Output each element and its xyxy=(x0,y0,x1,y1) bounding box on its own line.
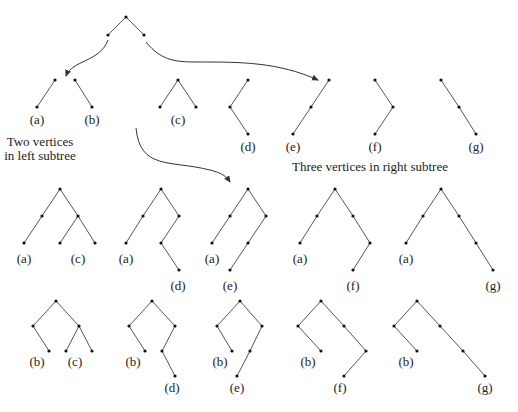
tree-node xyxy=(158,105,161,108)
tree-node xyxy=(90,349,93,352)
tree-node xyxy=(93,241,96,244)
tree-node xyxy=(342,374,345,377)
tree-node xyxy=(176,78,179,81)
tree-node xyxy=(150,299,153,302)
tree-edge xyxy=(298,301,321,326)
tree-node xyxy=(291,132,294,135)
tree-node xyxy=(159,241,162,244)
tree-node xyxy=(58,187,61,190)
tree-edge xyxy=(33,326,49,351)
tree-edge xyxy=(161,216,179,243)
tree-node xyxy=(327,78,330,81)
tree-label: (f) xyxy=(347,278,360,293)
tree-edge xyxy=(230,80,248,107)
root-tree xyxy=(106,15,145,36)
combined-tree-b-1: (b)(d) xyxy=(125,299,179,395)
tree-edge xyxy=(441,189,459,216)
tree-node xyxy=(47,349,50,352)
tree-node xyxy=(364,349,367,352)
tree-node xyxy=(392,324,395,327)
tree-node xyxy=(351,268,354,271)
combined-tree-a-3: (a)(f) xyxy=(293,187,372,293)
tree-edge xyxy=(160,80,178,107)
tree-node xyxy=(461,349,464,352)
tree-edge xyxy=(126,216,143,243)
tree-edge xyxy=(240,301,262,326)
tree-edge xyxy=(441,80,459,107)
tree-node xyxy=(106,33,109,36)
tree-edge xyxy=(417,301,440,326)
tree-node xyxy=(421,214,424,217)
tree-label: (e) xyxy=(223,278,237,293)
tree-edge xyxy=(293,107,311,134)
tree-edge xyxy=(212,216,230,243)
tree-edge xyxy=(353,243,370,270)
tree-node xyxy=(40,214,43,217)
tree-edge xyxy=(250,326,262,351)
tree-edge xyxy=(230,189,248,216)
tree-label: (b) xyxy=(300,354,315,369)
binary-tree-diagram: (a)(b) (c)(d)(e)(f)(g) (a)(c)(a)(d)(a)(e… xyxy=(0,0,518,412)
right-subtree-1: (d) xyxy=(228,78,255,154)
caption-right: Three vertices in right subtree xyxy=(292,159,448,174)
tree-node xyxy=(90,105,93,108)
tree-node xyxy=(64,349,67,352)
tree-edge xyxy=(335,189,353,216)
tree-node xyxy=(53,78,56,81)
tree-edge xyxy=(353,216,370,243)
tree-edge xyxy=(375,107,393,134)
tree-edge xyxy=(423,189,441,216)
tree-node xyxy=(319,349,322,352)
tree-label: (d) xyxy=(240,139,255,154)
tree-node xyxy=(73,78,76,81)
arrow-to-left-subtrees xyxy=(66,40,108,76)
tree-node xyxy=(127,324,130,327)
tree-label: (g) xyxy=(477,380,492,395)
arrow-to-combined-row xyxy=(136,128,230,182)
tree-edge xyxy=(56,301,79,326)
tree-node xyxy=(491,268,494,271)
tree-edge xyxy=(344,351,366,376)
tree-edge xyxy=(37,80,55,107)
combined-tree-a-4: (a)(g) xyxy=(399,187,501,293)
combined-tree-a-0: (a)(c) xyxy=(17,187,97,266)
tree-edge xyxy=(394,301,417,326)
tree-edge xyxy=(230,107,248,134)
tree-node xyxy=(31,324,34,327)
arrows xyxy=(66,40,318,182)
tree-edge xyxy=(78,216,95,243)
tree-label: (e) xyxy=(286,139,300,154)
tree-edge xyxy=(317,189,335,216)
tree-node xyxy=(391,105,394,108)
tree-edge xyxy=(161,243,179,270)
tree-edge xyxy=(300,216,317,243)
tree-node xyxy=(474,241,477,244)
tree-node xyxy=(124,15,127,18)
tree-edge xyxy=(126,17,144,35)
tree-node xyxy=(415,349,418,352)
tree-node xyxy=(194,105,197,108)
tree-label: (a) xyxy=(119,251,133,266)
tree-node xyxy=(210,241,213,244)
tree-node xyxy=(368,241,371,244)
combined-tree-b-4: (b)(g) xyxy=(392,299,492,395)
tree-node xyxy=(238,299,241,302)
tree-node xyxy=(177,214,180,217)
tree-node xyxy=(248,349,251,352)
tree-edge xyxy=(394,326,417,351)
tree-node xyxy=(142,33,145,36)
tree-node xyxy=(457,105,460,108)
tree-label: (g) xyxy=(485,278,500,293)
tree-edge xyxy=(217,326,232,351)
tree-label: (g) xyxy=(468,139,483,154)
captions: Two vertices in left subtree Three verti… xyxy=(4,134,448,174)
tree-node xyxy=(342,324,345,327)
tree-label: (b) xyxy=(398,354,413,369)
tree-edge xyxy=(66,326,79,351)
tree-label: (b) xyxy=(84,112,99,127)
tree-label: (c) xyxy=(71,251,85,266)
tree-node xyxy=(54,299,57,302)
tree-node xyxy=(143,349,146,352)
tree-label: (c) xyxy=(68,354,82,369)
tree-node xyxy=(22,241,25,244)
